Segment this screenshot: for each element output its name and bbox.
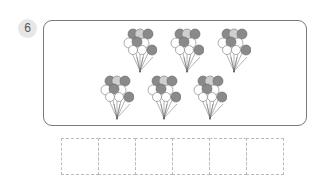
question-number: 6 <box>18 19 37 38</box>
answer-cell[interactable] <box>246 138 284 175</box>
answer-cell[interactable] <box>61 138 99 175</box>
answer-cell[interactable] <box>209 138 247 175</box>
balloon-bunch-icon <box>217 27 251 73</box>
answer-grid <box>61 138 284 175</box>
answer-cell[interactable] <box>135 138 173 175</box>
balloon-bunch-icon <box>147 74 181 120</box>
answer-cell[interactable] <box>172 138 210 175</box>
answer-cell[interactable] <box>98 138 136 175</box>
balloon-bunch-icon <box>100 74 134 120</box>
balloon-bunch-icon <box>193 74 227 120</box>
balloon-bunch-icon <box>170 27 204 73</box>
balloon-bunch-icon <box>123 27 157 73</box>
